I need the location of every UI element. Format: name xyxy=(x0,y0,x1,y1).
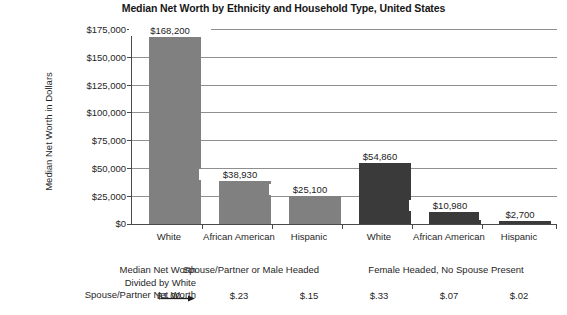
ratio-spouse-hispanic: $.15 xyxy=(269,290,349,301)
category-label-spouse-african-american: African American xyxy=(199,231,279,243)
x-tick-1 xyxy=(202,224,203,229)
y-tick-label-25000: $25,000 xyxy=(64,191,126,202)
y-axis-title-wrap: Median Net Worth in Dollars xyxy=(18,30,38,220)
bar-spouse-white[interactable] xyxy=(149,37,201,224)
bar-female-white[interactable] xyxy=(359,163,411,224)
bar-spouse-african-american[interactable] xyxy=(219,181,271,224)
group-label-spouse-or-male-headed: Spouse/Partner or Male Headed xyxy=(156,264,346,275)
category-label-female-hispanic: Hispanic xyxy=(479,231,559,243)
y-tick-label-175000: $175,000 xyxy=(64,24,126,35)
x-axis-line xyxy=(131,224,557,225)
x-tick-4 xyxy=(412,224,413,229)
bar-spouse-hispanic[interactable] xyxy=(289,196,341,224)
y-tick-label-125000: $125,000 xyxy=(64,80,126,91)
bar-value-female-hispanic: $2,700 xyxy=(479,209,561,220)
y-tick-label-75000: $75,000 xyxy=(64,135,126,146)
category-label-female-african-american: African American xyxy=(409,231,489,243)
category-label-spouse-white: White xyxy=(129,231,209,243)
x-tick-2 xyxy=(272,224,273,229)
ratio-female-african-american: $.07 xyxy=(409,290,489,301)
group-label-female-headed: Female Headed, No Spouse Present xyxy=(336,264,556,275)
y-tick-label-100000: $100,000 xyxy=(64,107,126,118)
bar-value-spouse-white: $168,200 xyxy=(129,25,211,36)
ratio-female-white: $.33 xyxy=(339,290,419,301)
bar-female-african-american[interactable] xyxy=(429,212,481,224)
category-line-1: White xyxy=(157,231,181,242)
y-tick-label-50000: $50,000 xyxy=(64,163,126,174)
category-label-female-white: White xyxy=(339,231,419,243)
category-line-1: White xyxy=(367,231,391,242)
bar-value-spouse-hispanic: $25,100 xyxy=(269,184,351,195)
y-tick-label-0: $0 xyxy=(64,218,126,229)
ratio-spouse-african-american: $.23 xyxy=(199,290,279,301)
ratio-note-line-2: Divided by White xyxy=(0,277,196,290)
ratio-spouse-white: $1.00 xyxy=(129,290,209,301)
bar-female-hispanic[interactable] xyxy=(499,221,551,224)
ratio-female-hispanic: $.02 xyxy=(479,290,559,301)
category-line-1: Hispanic xyxy=(501,231,537,242)
category-line-1: African xyxy=(203,231,233,242)
bar-value-spouse-african-american: $38,930 xyxy=(199,169,281,180)
category-line-1: Hispanic xyxy=(291,231,327,242)
y-tick-label-150000: $150,000 xyxy=(64,52,126,63)
category-label-spouse-hispanic: Hispanic xyxy=(269,231,349,243)
x-tick-6 xyxy=(556,224,557,229)
x-tick-3 xyxy=(342,224,343,229)
chart-container: Median Net Worth by Ethnicity and Househ… xyxy=(0,0,567,315)
x-tick-5 xyxy=(482,224,483,229)
category-line-1: African xyxy=(413,231,443,242)
bar-value-female-white: $54,860 xyxy=(339,151,421,162)
